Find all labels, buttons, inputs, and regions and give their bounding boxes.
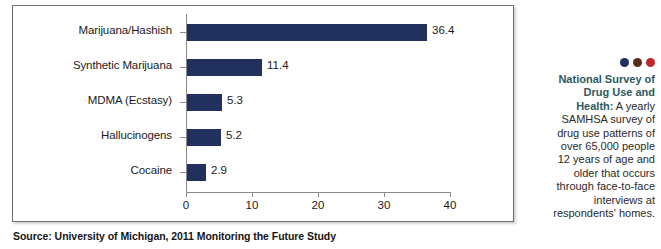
- category-label: Hallucinogens: [101, 129, 172, 141]
- x-axis-tick: [186, 192, 187, 197]
- category-tick: [180, 137, 186, 138]
- source-caption: Source: University of Michigan, 2011 Mon…: [13, 230, 336, 242]
- x-axis-tick: [252, 192, 253, 197]
- sidebar-note-text: National Survey of Drug Use and Health: …: [548, 73, 655, 220]
- chart-panel: Marijuana/Hashish 36.4 Synthetic Marijua…: [12, 5, 514, 222]
- x-axis-tick: [318, 192, 319, 197]
- x-axis-tick-label: 40: [444, 199, 457, 211]
- x-axis-tick-label: 10: [246, 199, 259, 211]
- bar-value-label: 11.4: [267, 59, 289, 71]
- bar-hallucinogens: [187, 129, 221, 146]
- bar-row: Synthetic Marijuana 11.4: [13, 51, 513, 85]
- category-tick: [180, 102, 186, 103]
- x-axis-tick: [384, 192, 385, 197]
- x-axis-tick-label: 0: [183, 199, 189, 211]
- bar-row: Hallucinogens 5.2: [13, 121, 513, 155]
- bar-row: MDMA (Ecstasy) 5.3: [13, 86, 513, 120]
- bar-cocaine: [187, 164, 206, 181]
- sidebar-note: National Survey of Drug Use and Health: …: [548, 58, 655, 220]
- category-label: MDMA (Ecstasy): [88, 94, 172, 106]
- bar-row: Marijuana/Hashish 36.4: [13, 16, 513, 50]
- bar-marijuana-hashish: [187, 24, 427, 41]
- bar-value-label: 2.9: [211, 164, 227, 176]
- bar-value-label: 5.3: [227, 94, 243, 106]
- bar-value-label: 5.2: [226, 129, 242, 141]
- category-label: Cocaine: [131, 164, 173, 176]
- category-label: Marijuana/Hashish: [78, 24, 172, 36]
- dot-brown-icon: [633, 58, 642, 67]
- dot-red-icon: [646, 58, 655, 67]
- dot-row: [548, 58, 655, 68]
- bar-synthetic-marijuana: [187, 59, 262, 76]
- sidebar-note-body: A yearly SAMHSA survey of drug use patte…: [553, 100, 655, 219]
- x-axis-tick-label: 20: [312, 199, 325, 211]
- bar-mdma-ecstasy: [187, 94, 222, 111]
- category-tick: [180, 32, 186, 33]
- category-tick: [180, 172, 186, 173]
- x-axis-tick-label: 30: [378, 199, 391, 211]
- bar-row: Cocaine 2.9: [13, 156, 513, 190]
- category-tick: [180, 67, 186, 68]
- category-label: Synthetic Marijuana: [73, 59, 172, 71]
- x-axis-tick: [450, 192, 451, 197]
- plot-area: Marijuana/Hashish 36.4 Synthetic Marijua…: [13, 6, 513, 221]
- dot-navy-icon: [620, 58, 629, 67]
- bar-value-label: 36.4: [432, 24, 454, 36]
